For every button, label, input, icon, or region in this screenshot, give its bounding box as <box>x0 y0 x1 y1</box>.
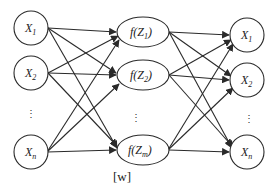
hidden-node-fz2: f(Z2) <box>117 60 169 90</box>
svg-text:f(Z1): f(Z1) <box>130 25 152 41</box>
weight-caption: [w] <box>113 169 131 184</box>
output-node-xn: Xn <box>230 135 264 169</box>
input-node-x2: X2 <box>14 56 48 90</box>
input-layer: X1 X2 ⋮ Xn <box>14 11 48 169</box>
svg-text:f(Z2): f(Z2) <box>130 68 152 84</box>
input-node-x1: X1 <box>14 11 48 45</box>
edges-input-to-hidden <box>47 28 119 152</box>
output-node-x1: X1 <box>230 18 264 52</box>
edges-hidden-to-output <box>168 32 233 152</box>
hidden-ellipsis: ⋮ <box>131 112 141 123</box>
output-node-x2: X2 <box>230 63 264 97</box>
hidden-layer: f(Z1) f(Z2) ⋮ f(Zm) <box>117 17 169 165</box>
svg-text:f(Zm): f(Zm) <box>128 143 152 159</box>
input-ellipsis: ⋮ <box>26 108 36 119</box>
output-ellipsis: ⋮ <box>244 113 254 124</box>
hidden-node-fzm: f(Zm) <box>117 135 169 165</box>
input-node-xn: Xn <box>14 135 48 169</box>
neural-network-diagram: X1 X2 ⋮ Xn f(Z1) f(Z2) ⋮ f(Zm) X1 <box>0 0 277 193</box>
output-layer: X1 X2 ⋮ Xn <box>230 18 264 169</box>
hidden-node-fz1: f(Z1) <box>117 17 169 47</box>
